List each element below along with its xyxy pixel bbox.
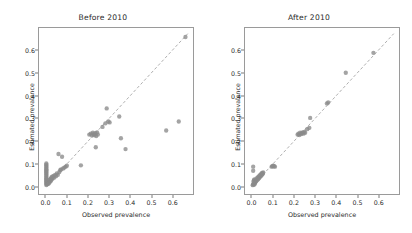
x-tick-label: 0.6 (168, 199, 178, 206)
panel-before-2010: Before 2010 0.00.10.20.30.40.50.60.00.10… (0, 0, 206, 233)
x-tick-label: 0.0 (40, 199, 50, 206)
x-tick-mark (45, 195, 46, 198)
axis-ticks-after: 0.00.10.20.30.40.50.60.00.10.20.30.40.50… (244, 27, 400, 195)
x-tick-mark (251, 195, 252, 198)
y-tick-mark (241, 187, 244, 188)
y-tick-label: 0.6 (25, 46, 35, 53)
y-tick-mark (241, 95, 244, 96)
y-tick-label: 0.5 (25, 69, 35, 76)
y-tick-label: 0.1 (231, 161, 241, 168)
x-tick-mark (357, 195, 358, 198)
y-tick-label: 0.1 (25, 161, 35, 168)
x-tick-label: 0.3 (104, 199, 114, 206)
panel-title-before: Before 2010 (0, 13, 206, 22)
x-tick-mark (336, 195, 337, 198)
y-tick-label: 0.6 (231, 46, 241, 53)
x-tick-mark (87, 195, 88, 198)
x-tick-label: 0.4 (125, 199, 135, 206)
y-tick-mark (241, 49, 244, 50)
panel-after-2010: After 2010 0.00.10.20.30.40.50.60.00.10.… (206, 0, 412, 233)
x-tick-mark (66, 195, 67, 198)
y-tick-mark (35, 49, 38, 50)
y-axis-label-before: Estimated prevalence (28, 83, 35, 150)
y-tick-mark (241, 72, 244, 73)
x-axis-label-after: Observed prevalence (244, 211, 400, 219)
x-tick-mark (172, 195, 173, 198)
y-tick-mark (35, 118, 38, 119)
x-tick-mark (293, 195, 294, 198)
x-tick-mark (315, 195, 316, 198)
y-tick-label: 0.0 (25, 184, 35, 191)
x-tick-label: 0.1 (62, 199, 72, 206)
y-tick-mark (241, 164, 244, 165)
y-tick-mark (35, 95, 38, 96)
axis-ticks-before: 0.00.10.20.30.40.50.60.00.10.20.30.40.50… (38, 27, 194, 195)
x-tick-label: 0.2 (289, 199, 299, 206)
y-axis-label-after: Estimated prevalence (234, 83, 241, 150)
x-tick-mark (151, 195, 152, 198)
y-tick-mark (35, 164, 38, 165)
x-tick-label: 0.5 (147, 199, 157, 206)
figure-two-panel-scatter: Before 2010 0.00.10.20.30.40.50.60.00.10… (0, 0, 412, 233)
y-tick-mark (241, 118, 244, 119)
y-tick-mark (35, 141, 38, 142)
y-tick-mark (35, 187, 38, 188)
x-tick-label: 0.3 (310, 199, 320, 206)
x-axis-label-before: Observed prevalence (38, 211, 194, 219)
x-tick-mark (378, 195, 379, 198)
x-tick-label: 0.0 (246, 199, 256, 206)
y-tick-mark (35, 72, 38, 73)
y-tick-label: 0.5 (231, 69, 241, 76)
x-tick-mark (272, 195, 273, 198)
y-tick-mark (241, 141, 244, 142)
x-tick-label: 0.1 (268, 199, 278, 206)
x-tick-mark (130, 195, 131, 198)
x-tick-label: 0.4 (331, 199, 341, 206)
x-tick-label: 0.6 (374, 199, 384, 206)
x-tick-label: 0.5 (353, 199, 363, 206)
x-tick-label: 0.2 (83, 199, 93, 206)
x-tick-mark (109, 195, 110, 198)
y-tick-label: 0.0 (231, 184, 241, 191)
panel-title-after: After 2010 (206, 13, 412, 22)
